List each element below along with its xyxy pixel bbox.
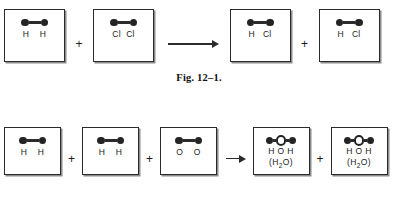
arrow-shaft — [168, 43, 212, 45]
atom-oxygen-icon — [354, 135, 365, 146]
plus-operator: + — [61, 153, 82, 165]
atom-hydrogen-icon — [19, 137, 27, 145]
formula-water: H O H — [268, 146, 294, 157]
formula-prefix: (H — [347, 157, 357, 167]
reaction-arrow-icon — [168, 40, 219, 49]
atom-cluster-water — [344, 135, 375, 146]
atom-hydrogen-icon — [336, 19, 344, 27]
atom-hydrogen-icon — [344, 137, 352, 145]
atom-labels-oxygen: O O — [176, 147, 200, 158]
molecule-box-hydrogen-a: H H — [4, 127, 61, 175]
formula-suffix: O) — [283, 157, 293, 167]
atom-oxygen-icon — [276, 135, 287, 146]
atom-cluster-oxygen — [175, 135, 202, 146]
bond-icon — [254, 21, 266, 23]
molecule-box-water-1: H O H (H2O) — [253, 127, 310, 175]
atom-cluster-chlorine — [110, 17, 137, 28]
reaction-arrow-icon — [226, 154, 246, 163]
atom-hydrogen-icon — [21, 19, 29, 27]
plus-operator: + — [65, 38, 93, 50]
plus-operator: + — [310, 153, 331, 165]
reaction-row-bottom: H H + H H + O O — [0, 127, 398, 175]
arrow-head — [239, 155, 246, 163]
molecule-box-hydrogen-b: H H — [82, 127, 139, 175]
atom-labels-hydrogen: H H — [99, 147, 123, 158]
bond-icon — [27, 139, 39, 141]
reaction-row-top: H H + Cl Cl H Cl + — [0, 9, 398, 62]
formula-water-parenthetical: (H2O) — [269, 157, 293, 168]
atom-chlorine-icon — [355, 19, 363, 27]
atom-cluster-hydrogen-chloride — [247, 17, 274, 28]
formula-suffix: O) — [361, 157, 371, 167]
bond-icon — [343, 21, 355, 23]
atom-hydrogen-icon — [97, 137, 105, 145]
atom-hydrogen-icon — [117, 137, 125, 145]
arrow-head — [212, 40, 219, 48]
figure-caption: Fig. 12–1. — [0, 72, 398, 83]
bond-icon — [183, 139, 195, 141]
molecule-box-hydrogen-chloride-2: H Cl — [319, 9, 380, 62]
atom-oxygen-icon — [195, 137, 203, 145]
plus-operator: + — [139, 153, 160, 165]
formula-water: H O H — [346, 146, 372, 157]
figure-canvas: H H + Cl Cl H Cl + — [0, 0, 398, 197]
bond-icon — [105, 139, 117, 141]
atom-labels-chlorine: Cl Cl — [112, 29, 135, 40]
atom-hydrogen-icon — [41, 19, 49, 27]
atom-cluster-hydrogen — [19, 135, 46, 146]
molecule-box-chlorine: Cl Cl — [93, 9, 154, 62]
atom-labels-hydrogen: H H — [23, 29, 47, 40]
atom-cluster-hydrogen-chloride — [336, 17, 363, 28]
bond-icon — [118, 21, 130, 23]
molecule-box-water-2: H O H (H2O) — [331, 127, 388, 175]
atom-labels-hydrogen: H H — [21, 147, 45, 158]
arrow-shaft — [226, 158, 239, 160]
atom-hydrogen-icon — [39, 137, 47, 145]
atom-cluster-hydrogen — [97, 135, 124, 146]
atom-hydrogen-icon — [367, 137, 375, 145]
formula-water-parenthetical: (H2O) — [347, 157, 371, 168]
atom-oxygen-icon — [175, 137, 183, 145]
molecule-box-hydrogen-chloride-1: H Cl — [230, 9, 291, 62]
atom-cluster-hydrogen — [21, 17, 48, 28]
atom-chlorine-icon — [110, 19, 118, 27]
molecule-box-hydrogen: H H — [4, 9, 65, 62]
molecule-box-oxygen: O O — [160, 127, 217, 175]
atom-labels-hydrogen-chloride: H Cl — [337, 29, 360, 40]
atom-hydrogen-icon — [289, 137, 297, 145]
atom-hydrogen-icon — [266, 137, 274, 145]
formula-prefix: (H — [269, 157, 279, 167]
atom-chlorine-icon — [266, 19, 274, 27]
atom-chlorine-icon — [130, 19, 138, 27]
bond-icon — [29, 21, 41, 23]
atom-cluster-water — [266, 135, 297, 146]
atom-hydrogen-icon — [247, 19, 255, 27]
atom-labels-hydrogen-chloride: H Cl — [248, 29, 271, 40]
plus-operator: + — [291, 38, 319, 50]
